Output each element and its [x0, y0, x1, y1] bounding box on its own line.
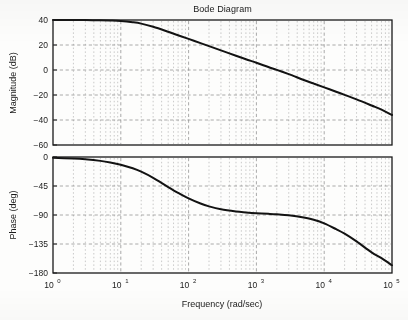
svg-text:0: 0 [57, 278, 61, 284]
svg-text:10: 10 [383, 280, 393, 290]
frequency-axis-label: Frequency (rad/sec) [182, 299, 263, 309]
svg-text:10: 10 [180, 280, 190, 290]
phase-y-tick-label: −180 [29, 268, 48, 278]
phase-y-tick-label: −45 [34, 181, 49, 191]
magnitude-response-curve [53, 20, 392, 115]
magnitude-y-tick-label: −60 [34, 140, 49, 150]
magnitude-y-tick-label: 0 [43, 65, 48, 75]
svg-text:4: 4 [329, 278, 333, 284]
frame-layer [53, 20, 392, 273]
x-tick-label: 103 [248, 278, 265, 290]
grid-layer [54, 21, 391, 272]
svg-text:10: 10 [315, 280, 325, 290]
x-tick-label: 102 [180, 278, 197, 290]
magnitude-y-tick-label: 40 [39, 15, 49, 25]
svg-text:5: 5 [396, 278, 400, 284]
phase-y-tick-label: −90 [34, 210, 49, 220]
magnitude-axis-label: Magnitude (dB) [8, 52, 18, 114]
x-tick-label: 105 [383, 278, 400, 290]
phase-axis-label: Phase (deg) [8, 190, 18, 239]
magnitude-y-tick-label: 20 [39, 40, 49, 50]
svg-text:10: 10 [44, 280, 54, 290]
phase-y-tick-label: −135 [29, 239, 48, 249]
phase-y-tick-label: 0 [43, 152, 48, 162]
svg-text:3: 3 [261, 278, 265, 284]
svg-text:10: 10 [112, 280, 122, 290]
svg-text:1: 1 [125, 278, 129, 284]
svg-text:2: 2 [193, 278, 197, 284]
magnitude-y-tick-label: −20 [34, 90, 49, 100]
bode-diagram-figure: Bode Diagram 40200−20−40−600−45−90−135−1… [0, 0, 408, 320]
x-tick-label: 100 [44, 278, 61, 290]
svg-text:10: 10 [248, 280, 258, 290]
x-tick-label: 101 [112, 278, 129, 290]
x-tick-label: 104 [315, 278, 332, 290]
phase-response-curve [53, 158, 392, 265]
magnitude-y-tick-label: −40 [34, 115, 49, 125]
bode-plot-canvas: 40200−20−40−600−45−90−135−18010010110210… [0, 0, 408, 320]
curve-layer [53, 20, 392, 265]
magnitude-plot-frame [53, 20, 392, 145]
